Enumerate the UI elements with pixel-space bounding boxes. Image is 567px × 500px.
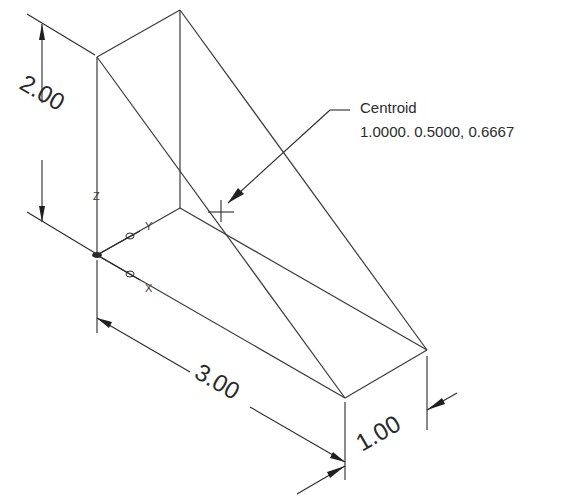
leader-line: [228, 110, 330, 203]
dimension-width: 1.00: [297, 356, 457, 494]
wedge-drawing: 2.00 3.00 1.00 Z Y X: [0, 0, 567, 500]
centroid-coordinates: 1.0000. 0.5000, 0.6667: [360, 122, 514, 142]
dimension-height-label: 2.00: [16, 69, 70, 116]
arrow-head-icon: [327, 466, 345, 478]
axis-x-label: X: [145, 282, 153, 294]
axis-y-label: Y: [145, 220, 153, 232]
centroid-callout: [208, 110, 350, 222]
arrow-head-icon: [427, 398, 445, 410]
ucs-axes-icon: Z Y X: [92, 190, 153, 294]
arrow-head-icon: [39, 24, 45, 40]
dimension-width-label: 1.00: [351, 410, 405, 457]
wedge-edges: [97, 10, 427, 398]
arrow-head-icon: [97, 318, 112, 328]
centroid-label: Centroid 1.0000. 0.5000, 0.6667: [360, 98, 514, 142]
dimension-length: 3.00: [97, 260, 345, 480]
dimension-length-label: 3.00: [191, 358, 245, 405]
arrow-head-icon: [330, 452, 345, 462]
dimension-height: 2.00: [16, 14, 96, 253]
axis-z-label: Z: [93, 190, 100, 202]
centroid-title: Centroid: [360, 98, 514, 118]
